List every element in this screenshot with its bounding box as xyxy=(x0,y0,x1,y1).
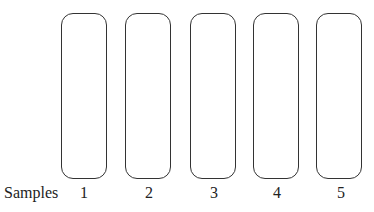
lane-label-5: 5 xyxy=(326,184,356,202)
lane-label-1: 1 xyxy=(69,184,99,202)
sample-lane-2 xyxy=(125,13,171,179)
lane-label-3: 3 xyxy=(199,184,229,202)
sample-lane-4 xyxy=(253,13,299,179)
lane-label-2: 2 xyxy=(134,184,164,202)
samples-row-label: Samples xyxy=(4,184,58,202)
sample-lane-1 xyxy=(61,13,107,179)
lane-label-4: 4 xyxy=(262,184,292,202)
sample-lane-3 xyxy=(190,13,236,179)
sample-lane-5 xyxy=(316,13,362,179)
